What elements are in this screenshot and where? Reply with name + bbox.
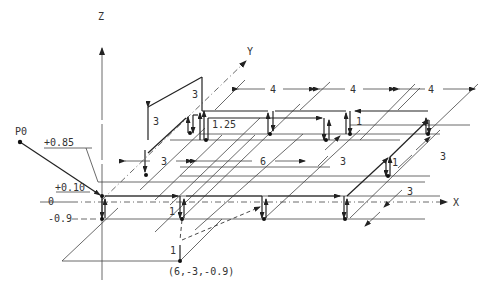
dim-3-vert-a: 3 xyxy=(153,116,159,127)
dim-6: 6 xyxy=(260,156,266,167)
path-points xyxy=(18,131,430,263)
dim-4a: 4 xyxy=(270,84,276,95)
dim-4c: 4 xyxy=(428,84,434,95)
p0-label: P0 xyxy=(15,126,27,137)
z-level-m09: -0.9 xyxy=(48,213,72,224)
y-axis-label: Y xyxy=(247,46,253,57)
level-lines xyxy=(98,125,470,219)
dim-1-c: 1 xyxy=(169,206,175,217)
dim-4b: 4 xyxy=(350,84,356,95)
z-level-085: +0.85 xyxy=(44,137,74,148)
dim-125: 1.25 xyxy=(212,119,236,130)
labels: P0 +0.85 +0.10 0 -0.9 4 4 4 3 6 3 3 3 3 … xyxy=(15,84,446,277)
diagonal-guides xyxy=(140,80,478,232)
dim-3-vert-b: 3 xyxy=(192,89,198,100)
tool-path xyxy=(20,77,429,261)
tool-path-diagram: Z Y X xyxy=(0,0,490,291)
dim-1-d: 1 xyxy=(170,245,176,256)
dim-3-mid: 3 xyxy=(340,156,346,167)
z-axis-label: Z xyxy=(98,11,104,22)
dim-3-right-upper: 3 xyxy=(440,151,446,162)
dim-3-left: 3 xyxy=(161,156,167,167)
lower-plane xyxy=(62,208,222,261)
dim-3-right-lower: 3 xyxy=(407,186,413,197)
x-axis-label: X xyxy=(453,197,459,208)
z-level-0: 0 xyxy=(48,196,54,207)
dim-1-a: 1 xyxy=(356,116,362,127)
z-axis: Z xyxy=(98,11,104,280)
dim-1-b: 1 xyxy=(392,157,398,168)
z-level-010: +0.10 xyxy=(55,182,85,193)
coordinate-label: (6,-3,-0.9) xyxy=(168,266,234,277)
